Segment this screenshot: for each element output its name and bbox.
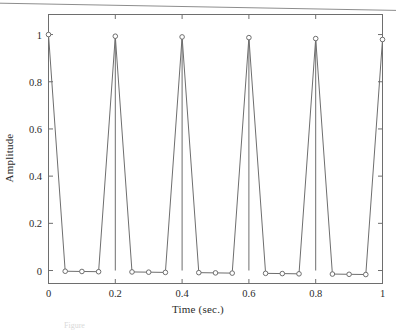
stem-plot bbox=[0, 0, 396, 331]
x-tick-label: 0.6 bbox=[242, 288, 255, 299]
y-tick-label: 0.4 bbox=[14, 171, 42, 182]
y-tick-label: 1 bbox=[14, 29, 42, 40]
y-tick-label: 0.8 bbox=[14, 76, 42, 87]
data-point-marker bbox=[280, 271, 285, 276]
data-point-marker bbox=[347, 272, 352, 277]
data-point-marker bbox=[63, 269, 68, 274]
x-tick-label: 0 bbox=[46, 288, 51, 299]
y-tick-label: 0.6 bbox=[14, 123, 42, 134]
x-tick-label: 0.4 bbox=[176, 288, 189, 299]
data-point-marker bbox=[247, 35, 252, 40]
data-point-marker bbox=[146, 270, 151, 275]
x-tick-label: 1 bbox=[380, 288, 385, 299]
data-point-marker bbox=[330, 272, 335, 277]
data-point-marker bbox=[180, 35, 185, 40]
x-axis-title: Time (sec.) bbox=[0, 303, 396, 315]
figure-caption-fragment: Figure bbox=[64, 321, 284, 330]
y-tick-label: 0.2 bbox=[14, 218, 42, 229]
x-tick-label: 0.2 bbox=[109, 288, 122, 299]
x-tick-label: 0.8 bbox=[309, 288, 322, 299]
data-point-marker bbox=[263, 271, 268, 276]
data-point-marker bbox=[380, 37, 385, 42]
data-point-marker bbox=[364, 272, 369, 277]
data-point-marker bbox=[313, 36, 318, 41]
data-point-marker bbox=[130, 270, 135, 275]
data-point-marker bbox=[230, 271, 235, 276]
data-point-marker bbox=[297, 272, 302, 277]
y-tick-label: 0 bbox=[14, 265, 42, 276]
data-point-marker bbox=[96, 269, 101, 274]
data-point-marker bbox=[113, 34, 118, 39]
data-point-marker bbox=[163, 270, 168, 275]
data-point-marker bbox=[197, 270, 202, 275]
data-point-marker bbox=[80, 269, 85, 274]
data-point-marker bbox=[213, 271, 218, 276]
figure-container: Time (sec.) Amplitude 00.20.40.60.81 00.… bbox=[0, 0, 396, 331]
data-point-marker bbox=[46, 32, 51, 37]
